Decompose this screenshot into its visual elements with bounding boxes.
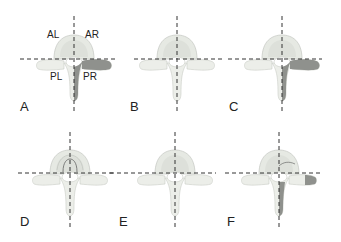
panel-label-f: F <box>227 215 235 228</box>
panel-label-e: E <box>119 215 128 228</box>
panel-label-c: C <box>229 100 238 113</box>
quadrant-label-pr: PR <box>83 72 97 82</box>
quadrant-label-pl: PL <box>50 72 62 82</box>
panel-label-b: B <box>130 100 139 113</box>
quadrant-label-al: AL <box>47 30 59 40</box>
panel-label-a: A <box>20 100 29 113</box>
panel-label-d: D <box>20 215 29 228</box>
quadrant-label-ar: AR <box>85 30 99 40</box>
